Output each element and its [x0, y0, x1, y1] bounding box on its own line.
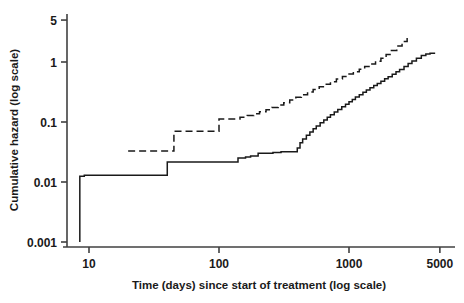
y-tick-label: 1	[50, 56, 57, 70]
y-tick-label: 0.1	[40, 116, 57, 130]
y-axis-tick-labels: 0.0010.010.115	[27, 14, 57, 250]
figure-cumulative-hazard-chart: 0.0010.010.115 1010010005000 Time (days)…	[0, 0, 464, 303]
x-tick-label: 1000	[336, 257, 363, 271]
x-axis-tick-labels: 1010010005000	[82, 257, 453, 271]
y-axis-title: Cumulative hazard (log scale)	[8, 49, 20, 211]
y-tick-label: 5	[50, 14, 57, 28]
y-tick-label: 0.01	[34, 176, 58, 190]
axes-group	[63, 14, 455, 247]
x-tick-label: 5000	[427, 257, 454, 271]
data-series-group	[80, 38, 435, 242]
solid-curve	[80, 53, 435, 242]
x-tick-label: 10	[82, 257, 96, 271]
x-axis-ticks	[89, 247, 440, 253]
y-axis-ticks	[61, 20, 67, 242]
dashed-curve	[128, 38, 407, 151]
y-tick-label: 0.001	[27, 236, 57, 250]
x-axis-title: Time (days) since start of treatment (lo…	[132, 279, 386, 291]
chart-canvas: 0.0010.010.115 1010010005000 Time (days)…	[0, 0, 464, 303]
x-tick-label: 100	[209, 257, 229, 271]
